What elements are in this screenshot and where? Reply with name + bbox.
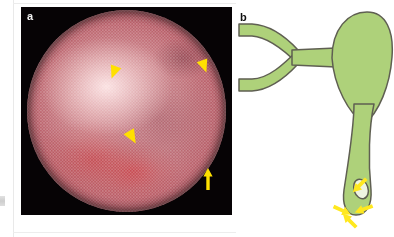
arrowhead-1-icon xyxy=(106,64,121,80)
panel-b-anatomical-schematic: b xyxy=(236,3,394,235)
arrowhead-2-icon xyxy=(197,58,212,74)
panel-a-endoscopic-photograph: a xyxy=(21,7,232,215)
biliary-tree-schematic xyxy=(236,3,394,235)
arrow-1-icon xyxy=(203,168,212,190)
page-rule-left xyxy=(13,0,14,237)
scan-artifact xyxy=(0,196,5,206)
panel-a-annotation-layer xyxy=(21,7,232,215)
figure-root: a b xyxy=(0,0,394,237)
arrowhead-3-icon xyxy=(124,128,141,146)
cystic-duct xyxy=(292,48,336,67)
panel-a-label: a xyxy=(27,11,33,22)
